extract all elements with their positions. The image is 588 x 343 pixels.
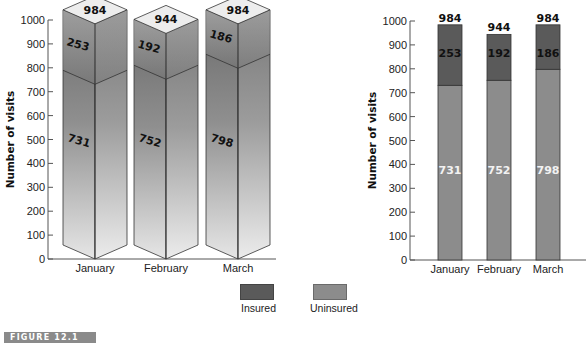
right-stacked-chart: 01002003004005006007008009001000Number o…: [366, 12, 586, 275]
bar-march: 984186798: [536, 12, 560, 260]
legend-label-insured: Insured: [241, 302, 276, 314]
total-label: 984: [439, 12, 462, 25]
y-tick-label: 600: [27, 110, 45, 122]
uninsured-value-label: 798: [537, 164, 560, 177]
x-category-label: March: [533, 263, 564, 275]
y-tick-label: 500: [27, 134, 45, 146]
uninsured-value-label: 752: [488, 164, 511, 177]
y-tick-label: 900: [389, 39, 407, 51]
uninsured-value-label: 731: [439, 164, 462, 177]
y-tick-label: 100: [27, 229, 45, 241]
x-category-label: January: [430, 263, 470, 275]
total-label: 984: [84, 4, 107, 17]
y-axis-label: Number of visits: [4, 91, 16, 189]
x-category-label: February: [144, 262, 189, 274]
y-tick-label: 300: [27, 181, 45, 193]
y-tick-label: 0: [39, 253, 45, 265]
legend-swatch-uninsured: [313, 284, 347, 300]
y-axis-label: Number of visits: [366, 92, 378, 190]
y-tick-label: 1000: [21, 14, 45, 26]
x-category-label: February: [477, 263, 522, 275]
y-tick-label: 400: [389, 158, 407, 170]
insured-value-label: 192: [488, 47, 511, 60]
insured-value-label: 186: [537, 47, 560, 60]
total-label: 944: [488, 21, 511, 34]
y-tick-label: 500: [389, 135, 407, 147]
figure-charts: 01002003004005006007008009001000Number o…: [0, 0, 588, 343]
y-tick-label: 600: [389, 111, 407, 123]
y-tick-label: 300: [389, 182, 407, 194]
bar-january: 984253731: [438, 12, 462, 260]
x-category-label: January: [75, 262, 115, 274]
y-tick-label: 800: [389, 63, 407, 75]
y-tick-label: 200: [27, 205, 45, 217]
total-label: 944: [155, 13, 178, 26]
legend-swatch-insured: [240, 284, 274, 300]
total-label: 984: [537, 12, 560, 25]
figure-label: FIGURE 12.1: [4, 332, 96, 343]
bar-february: 944192752: [134, 5, 198, 259]
y-tick-label: 400: [27, 157, 45, 169]
y-tick-label: 1000: [383, 15, 407, 27]
y-tick-label: 100: [389, 230, 407, 242]
y-tick-label: 700: [389, 87, 407, 99]
left-3d-chart: 01002003004005006007008009001000Number o…: [4, 0, 276, 274]
y-tick-label: 200: [389, 206, 407, 218]
y-tick-label: 700: [27, 86, 45, 98]
y-tick-label: 0: [401, 254, 407, 266]
total-label: 984: [227, 4, 250, 17]
y-tick-label: 900: [27, 38, 45, 50]
bar-january: 984253731: [63, 0, 127, 259]
bar-march: 984186798: [206, 0, 270, 259]
insured-value-label: 253: [439, 47, 462, 60]
legend-label-uninsured: Uninsured: [310, 302, 358, 314]
x-category-label: March: [223, 262, 254, 274]
bar-february: 944192752: [487, 21, 511, 260]
y-tick-label: 800: [27, 62, 45, 74]
